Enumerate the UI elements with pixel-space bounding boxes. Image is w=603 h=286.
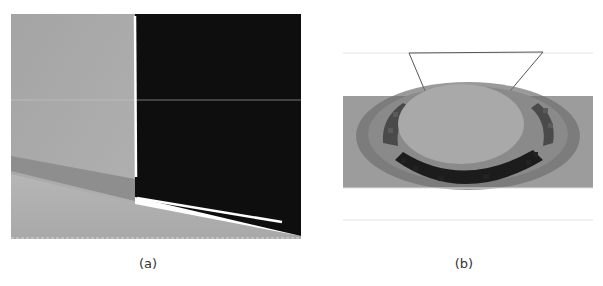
wall-corner-image — [11, 14, 301, 239]
panel-b-image — [343, 48, 598, 223]
caption-b: (b) — [444, 256, 484, 271]
panel-a-image — [11, 14, 301, 239]
heatmap-strip — [343, 48, 598, 223]
caption-a: (a) — [128, 256, 168, 271]
